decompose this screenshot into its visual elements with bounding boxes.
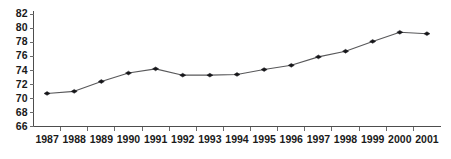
y-tick-label: 70 (16, 92, 28, 104)
data-point-marker (397, 30, 403, 34)
x-axis: 1987198819891990199119921993199419951996… (34, 127, 441, 145)
x-tick-label: 1987 (35, 133, 59, 145)
chart-plot-area: 666870727476788082 198719881989199019911… (0, 0, 451, 159)
y-tick-label: 82 (16, 7, 28, 19)
x-tick-label: 1997 (307, 133, 331, 145)
data-point-marker (180, 73, 186, 77)
line-chart: 666870727476788082 198719881989199019911… (0, 0, 451, 159)
data-point-marker (44, 92, 50, 96)
x-tick-label: 1993 (198, 133, 222, 145)
x-tick-label: 1988 (63, 133, 87, 145)
data-point-marker (288, 63, 294, 67)
x-tick-label: 1992 (171, 133, 195, 145)
x-tick-label: 1998 (334, 133, 358, 145)
y-tick-label: 68 (16, 106, 28, 118)
data-point-marker (261, 68, 267, 72)
data-point-marker (207, 73, 213, 77)
x-tick-label: 1995 (252, 133, 276, 145)
y-tick-label: 72 (16, 78, 28, 90)
y-tick-label: 80 (16, 21, 28, 33)
y-tick-label: 78 (16, 35, 28, 47)
data-point-marker (234, 73, 240, 77)
data-point-marker (153, 67, 159, 71)
data-series (44, 30, 430, 95)
x-tick-label: 1999 (361, 133, 385, 145)
y-axis: 666870727476788082 (16, 7, 34, 132)
x-tick-label: 2001 (415, 133, 439, 145)
data-point-marker (125, 71, 131, 75)
x-tick-label: 1994 (225, 133, 249, 145)
x-tick-label: 1989 (90, 133, 114, 145)
y-tick-label: 74 (16, 64, 28, 76)
y-tick-label: 66 (16, 120, 28, 132)
x-tick-label: 1996 (280, 133, 304, 145)
x-tick-label: 1990 (117, 133, 141, 145)
data-point-marker (315, 55, 321, 59)
data-point-marker (424, 32, 430, 36)
x-tick-label: 1991 (144, 133, 168, 145)
y-tick-label: 76 (16, 49, 28, 61)
x-tick-label: 2000 (388, 133, 412, 145)
